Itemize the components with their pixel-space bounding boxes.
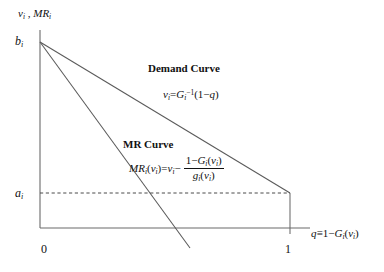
demand-curve-label: Demand Curve xyxy=(148,63,220,74)
y-tick-a-sub: i xyxy=(21,192,23,201)
mr-eq-lhs: MRi(vi)=vi− xyxy=(129,163,181,175)
x-axis-label-close: ) xyxy=(355,227,359,239)
y-axis-label: vi , MRi xyxy=(18,8,51,20)
economics-diagram: vi , MRi bi ai 0 1 q≡1−Gi(vi) Demand Cur… xyxy=(0,0,384,272)
demand-eq-G: G xyxy=(176,88,184,100)
y-tick-label-a-i: ai xyxy=(15,187,23,201)
y-axis-label-mr: MR xyxy=(33,7,49,19)
y-tick-b-sub: i xyxy=(21,40,23,49)
demand-curve-equation: vi=Gi−1(1−q) xyxy=(163,89,219,101)
x-tick-label-one: 1 xyxy=(285,243,291,255)
x-axis-label: q≡1−Gi(vi) xyxy=(311,228,359,240)
y-tick-label-b-i: bi xyxy=(15,35,23,49)
mr-eq-denominator: gi(vi) xyxy=(191,169,217,182)
mr-eq-MR: MR xyxy=(129,162,145,174)
mr-eq-num-close: ) xyxy=(218,154,222,166)
mr-curve-label: MR Curve xyxy=(123,139,173,150)
mr-curve-equation: MRi(vi)=vi−1−Gi(vi)gi(vi) xyxy=(129,155,225,182)
demand-eq-G-sup: −1 xyxy=(186,88,194,97)
mr-eq-minus: − xyxy=(174,162,180,174)
y-axis-label-mr-sub: i xyxy=(49,12,51,21)
mr-eq-numerator: 1−Gi(vi) xyxy=(184,155,224,168)
x-tick-label-zero: 0 xyxy=(41,243,47,255)
y-axis-label-sep: , xyxy=(25,7,33,19)
mr-eq-den-close: ) xyxy=(211,169,215,181)
mr-eq-fraction: 1−Gi(vi)gi(vi) xyxy=(184,155,224,182)
demand-eq-close: ) xyxy=(215,88,219,100)
